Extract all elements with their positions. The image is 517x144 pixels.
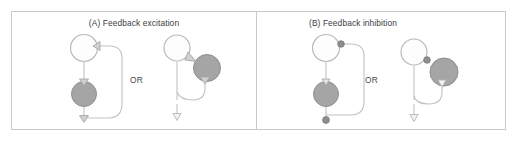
wire-feedback-loop (414, 82, 442, 104)
inhibitory-terminal-feedback-onto-principal-icon (424, 57, 431, 64)
figure-canvas: (A) Feedback excitation OR (0, 0, 517, 144)
excitatory-terminal-output-axon-icon (173, 114, 181, 121)
neuron-principal-white-b2 (401, 39, 427, 65)
neuron-principal-white-b1 (313, 35, 340, 62)
circuit-b1-vertical-feedback-inhibition (304, 30, 378, 126)
panel-a-title: (A) Feedback excitation (12, 18, 256, 28)
neuron-principal-white-a1 (71, 35, 98, 62)
circuit-a1-vertical-feedback-excitation (62, 30, 136, 126)
excitatory-terminal-output-axon-icon (410, 115, 418, 122)
panel-feedback-excitation: (A) Feedback excitation OR (11, 11, 257, 130)
inhibitory-terminal-output-axon-icon (323, 117, 330, 124)
panel-feedback-inhibition: (B) Feedback inhibition OR (256, 11, 506, 130)
circuit-b2-lateral-feedback-inhibition (397, 30, 467, 126)
inhibitory-terminal-feedback-onto-principal-icon (338, 41, 345, 48)
wire-feedback-loop (177, 78, 205, 100)
circuit-a2-lateral-feedback-excitation (160, 30, 230, 126)
excitatory-terminal-output-axon-icon (80, 116, 89, 123)
panel-b-title: (B) Feedback inhibition (257, 18, 505, 28)
